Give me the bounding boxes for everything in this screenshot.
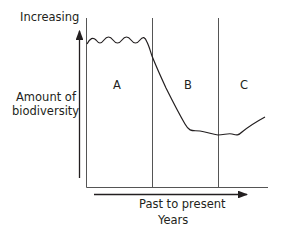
x-axis-label: Past to present: [139, 197, 226, 211]
region-label-a: A: [113, 78, 121, 92]
y-axis-label-line2: biodiversity: [12, 104, 79, 118]
region-label-b: B: [184, 78, 192, 92]
region-label-c: C: [240, 78, 248, 92]
y-axis-label-line1: Amount of: [16, 90, 76, 104]
y-axis-top-label: Increasing: [20, 10, 79, 24]
x-axis-unit: Years: [158, 213, 188, 227]
